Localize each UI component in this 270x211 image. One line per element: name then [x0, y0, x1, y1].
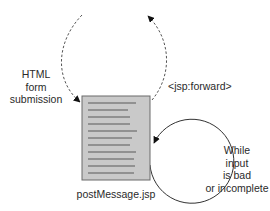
loop-condition-label: While input is bad or incomplete: [205, 144, 269, 194]
label-line: HTML: [6, 68, 66, 81]
label-line: form: [6, 81, 66, 94]
label-line: While: [205, 144, 269, 157]
form-submission-label: HTML form submission: [6, 68, 66, 106]
label-line: <jsp:forward>: [168, 80, 232, 93]
label-line: input: [205, 157, 269, 170]
jsp-forward-arrow: [148, 16, 167, 100]
label-line: postMessage.jsp: [76, 188, 156, 201]
page-name-label: postMessage.jsp: [76, 188, 156, 201]
label-line: submission: [6, 93, 66, 106]
jsp-forward-label: <jsp:forward>: [168, 80, 232, 93]
label-line: is bad: [205, 169, 269, 182]
document-icon: [82, 96, 150, 180]
label-line: or incomplete: [205, 182, 269, 195]
